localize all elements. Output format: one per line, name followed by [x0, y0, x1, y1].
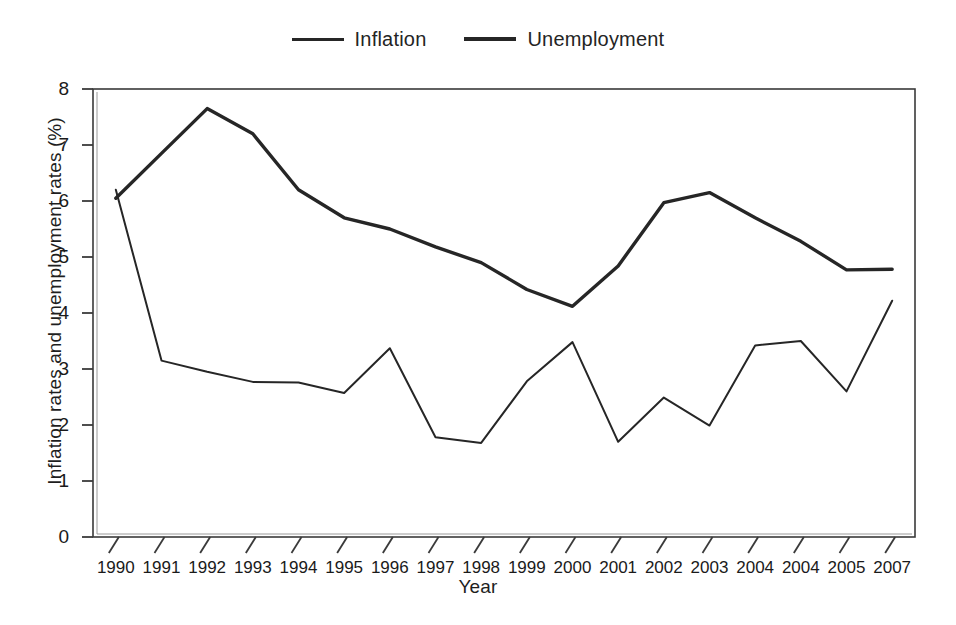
plot-frame: [93, 89, 915, 537]
x-axis-tick: [840, 537, 850, 553]
plot-area: [0, 0, 956, 625]
y-axis-tick-label: 0: [35, 527, 69, 546]
x-axis-tick: [337, 537, 347, 553]
x-axis-tick: [566, 537, 576, 553]
x-axis-tick: [748, 537, 758, 553]
x-axis-tick: [429, 537, 439, 553]
x-axis-tick: [383, 537, 393, 553]
plot-frame-inner-shadow: [97, 92, 912, 534]
y-axis-tick-label: 8: [35, 79, 69, 98]
y-axis-tick-label: 5: [35, 247, 69, 266]
x-axis-tick: [794, 537, 804, 553]
x-axis-title: Year: [0, 576, 956, 598]
y-axis-tick-label: 2: [35, 415, 69, 434]
y-axis-tick-label: 3: [35, 359, 69, 378]
x-axis-tick: [155, 537, 165, 553]
x-axis-tick: [657, 537, 667, 553]
y-axis-tick-label: 7: [35, 135, 69, 154]
y-axis-tick-label: 6: [35, 191, 69, 210]
x-axis-tick: [474, 537, 484, 553]
x-axis-tick: [520, 537, 530, 553]
x-axis-tick: [885, 537, 895, 553]
x-axis-tick: [703, 537, 713, 553]
x-axis-tick: [246, 537, 256, 553]
y-axis-tick-label: 4: [35, 303, 69, 322]
x-axis-tick: [200, 537, 210, 553]
x-axis-tick: [109, 537, 119, 553]
x-axis-tick: [292, 537, 302, 553]
x-axis-tick: [611, 537, 621, 553]
series-line-unemployment: [116, 109, 892, 307]
chart-figure: Inflation Unemployment Inflation rates a…: [0, 0, 956, 625]
x-axis-tick-label: 2007: [862, 559, 922, 576]
y-axis-tick-label: 1: [35, 471, 69, 490]
